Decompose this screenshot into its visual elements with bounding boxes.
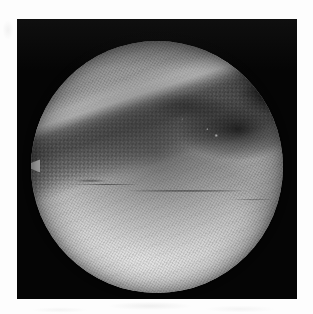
specular-ridge-highlight — [31, 41, 283, 293]
left-rim-tissue-spur — [31, 159, 40, 172]
specular-glints — [31, 41, 283, 293]
endoscope-circular-viewport — [31, 41, 283, 293]
diagonal-cleft-shadow — [31, 41, 283, 293]
scanned-page — [0, 0, 313, 314]
photograph-frame — [17, 19, 297, 299]
jpeg-block-artifacts — [31, 41, 283, 293]
scope-rim-vignette — [31, 41, 283, 293]
halftone-mesh-texture — [31, 41, 283, 293]
deep-shadow-pocket — [31, 41, 283, 293]
tissue-crease-line — [31, 41, 283, 293]
